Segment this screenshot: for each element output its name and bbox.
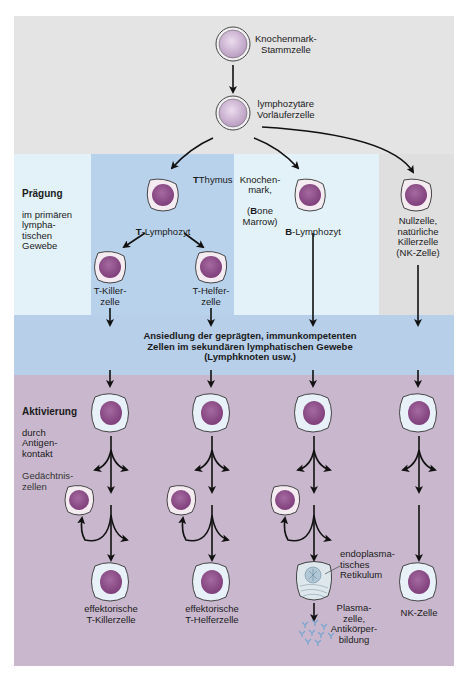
- plasma-cell: [296, 562, 340, 601]
- thymus-label: TThymus: [193, 164, 233, 185]
- t-helper-label: T-Helfer- zelle: [189, 286, 233, 307]
- effector-t-killer-label: effektorische T-Killerzelle: [72, 604, 150, 625]
- t-lymphocyte-label: T-Lymphozyt: [130, 216, 196, 237]
- activated-b-cell: [295, 394, 332, 432]
- effector-t-killer-cell: [92, 563, 129, 601]
- activated-nk-cell: [400, 394, 437, 432]
- activation-heading-bold: Aktivierung: [22, 406, 77, 417]
- b-rest: -Lymphozyt: [292, 226, 341, 237]
- stem-cell-label: Knochenmark- Stammzelle: [255, 34, 317, 55]
- thymus-text: Thymus: [199, 174, 233, 185]
- b-lymphocyte-cell: [295, 179, 325, 211]
- activation-heading: Aktivierung durch Antigen- kontakt: [22, 396, 77, 459]
- t-killer-label: T-Killer- zelle: [88, 286, 132, 307]
- bone-marrow-text: Knochen- mark,: [240, 174, 281, 196]
- activated-t-killer-cell: [92, 394, 129, 432]
- primary-heading-bold: Prägung: [22, 188, 63, 199]
- activation-heading-rest: durch Antigen- kontakt: [22, 427, 57, 459]
- null-cell: [401, 179, 432, 211]
- memory-cells-label: Gedächtnis- zellen: [22, 471, 73, 492]
- b-lymphocyte-label: B-Lymphozyt: [280, 216, 346, 237]
- effector-t-helper-cell: [193, 563, 230, 601]
- secondary-band-text: Ansiedlung der geprägten, immunkompetent…: [100, 331, 400, 363]
- nk-cell-label: NK-Zelle: [395, 608, 443, 619]
- null-cell-label: Nullzelle, natürliche Killerzelle (NK-Ze…: [388, 216, 448, 258]
- activated-t-helper-cell: [193, 394, 230, 432]
- primary-heading-rest: im primären lympha- tischen Gewebe: [22, 209, 72, 252]
- progenitor-label: lymphozytäre Vorläuferzelle: [257, 99, 315, 120]
- t-killer-cell: [95, 252, 126, 283]
- bone-marrow-label: Knochen- mark, (Bone Marrow): [237, 164, 283, 227]
- primary-tissue-heading: Prägung im primären lympha- tischen Gewe…: [22, 178, 72, 252]
- t-lymphocyte-cell: [147, 179, 178, 211]
- memory-cell-b: [271, 486, 300, 515]
- memory-cell-t-helper: [167, 486, 196, 515]
- effector-nk-cell: [400, 563, 437, 601]
- effector-t-helper-label: effektorische T-Helferzelle: [173, 604, 251, 625]
- t-helper-cell: [196, 252, 227, 283]
- progenitor-cell: [216, 96, 250, 130]
- t-rest: -Lymphozyt: [142, 226, 191, 237]
- plasma-cell-label: Plasma- zelle, Antikörper- bildung: [328, 603, 380, 645]
- er-label: endoplasma- tisches Retikulum: [340, 549, 395, 581]
- proliferation-arrows: [95, 436, 435, 492]
- stem-cell: [216, 27, 250, 61]
